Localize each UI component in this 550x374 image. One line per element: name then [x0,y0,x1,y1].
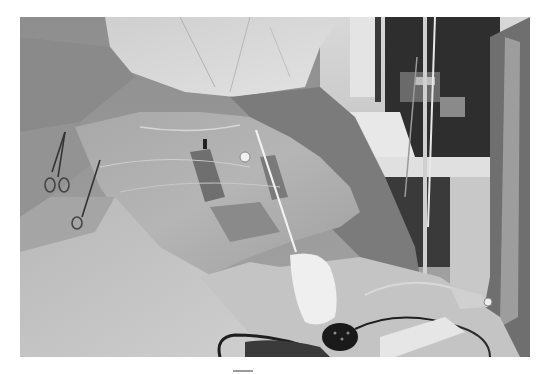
surgical-scene-illustration [20,17,530,357]
figure-page: Grayscale photograph of a surgical proce… [0,0,550,374]
figure-mark-line [233,370,253,372]
surgical-photograph [20,17,530,357]
